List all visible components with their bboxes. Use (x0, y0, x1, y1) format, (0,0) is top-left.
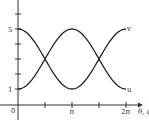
x-axis-arrow-icon (138, 103, 143, 108)
y-tick-label-5: 5 (8, 26, 12, 34)
curve-v (18, 29, 126, 89)
curve-label-u: u (127, 86, 132, 94)
y-tick-label-1: 1 (8, 86, 12, 94)
curve-label-v: v (126, 25, 131, 33)
chart-canvas: 5 1 0 π 2π θ, φ v u (0, 0, 149, 120)
x-tick-label-2pi: 2π (121, 108, 130, 116)
curve-u (18, 29, 126, 89)
origin-label: 0 (11, 107, 15, 115)
x-tick-label-pi: π (70, 108, 75, 116)
x-axis-label: θ, φ (138, 108, 149, 116)
